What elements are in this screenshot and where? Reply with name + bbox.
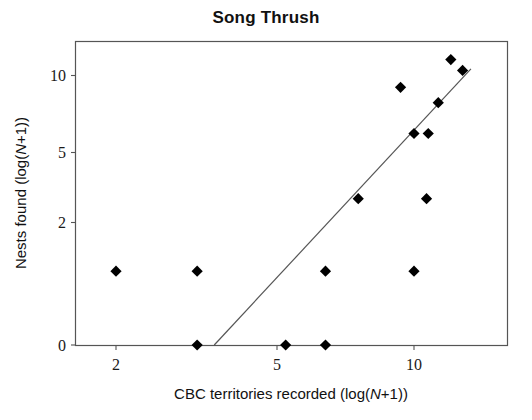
scatter-plot: 10 5 2 0 2 5 10 CBC territories recorded… bbox=[0, 0, 532, 420]
data-point bbox=[395, 82, 406, 93]
y-tick-label-2: 2 bbox=[58, 214, 66, 231]
chart-container: Song Thrush 10 5 2 0 2 5 10 bbox=[0, 0, 532, 420]
x-axis-title-post: +1)) bbox=[381, 385, 408, 402]
x-axis-title: CBC territories recorded (log(N+1)) bbox=[174, 385, 408, 402]
x-tick-label-5: 5 bbox=[273, 356, 281, 373]
x-axis-title-italic: N bbox=[370, 385, 381, 402]
data-point bbox=[421, 193, 432, 204]
x-tick-label-2: 2 bbox=[112, 356, 120, 373]
y-axis-ticks bbox=[71, 76, 76, 346]
plot-frame bbox=[76, 42, 508, 346]
y-tick-label-5: 5 bbox=[58, 144, 66, 161]
data-point bbox=[445, 54, 456, 65]
y-axis-title-italic: N bbox=[12, 144, 29, 155]
data-point bbox=[192, 266, 203, 277]
x-axis-title-pre: CBC territories recorded (log( bbox=[174, 385, 370, 402]
data-point bbox=[192, 339, 203, 350]
x-tick-label-10: 10 bbox=[406, 356, 422, 373]
data-point bbox=[433, 97, 444, 108]
data-point bbox=[423, 128, 434, 139]
y-tick-label-10: 10 bbox=[50, 67, 66, 84]
data-point bbox=[110, 266, 121, 277]
data-point bbox=[280, 339, 291, 350]
y-axis-title-post: +1)) bbox=[12, 117, 29, 144]
data-point bbox=[320, 266, 331, 277]
data-point bbox=[320, 339, 331, 350]
y-tick-label-0: 0 bbox=[58, 337, 66, 354]
y-axis-title: Nests found (log(N+1)) bbox=[12, 117, 29, 269]
data-point-group bbox=[110, 54, 468, 351]
y-axis-title-pre: Nests found (log( bbox=[12, 155, 29, 269]
data-point bbox=[408, 128, 419, 139]
regression-line bbox=[214, 69, 471, 345]
data-point bbox=[408, 266, 419, 277]
